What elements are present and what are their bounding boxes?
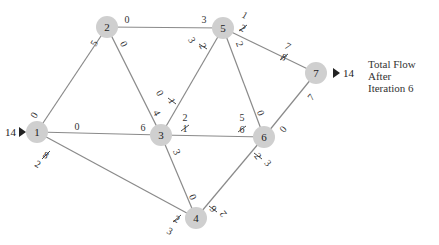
edge-5-6-label-near-5: 2 bbox=[234, 40, 246, 48]
edge-4-6 bbox=[196, 137, 264, 218]
edge-2-3-label-near-2: 0 bbox=[118, 39, 130, 48]
node-label: 5 bbox=[220, 22, 226, 34]
edge-3-5 bbox=[161, 28, 223, 135]
edge-3-4 bbox=[161, 135, 196, 218]
source-arrow-icon bbox=[19, 127, 26, 137]
edge-3-6-label-near-3: 2 1 bbox=[181, 112, 189, 134]
edge-5-7-label-near-7: 7 8 bbox=[279, 40, 293, 63]
node-label: 4 bbox=[193, 212, 199, 224]
node-label: 7 bbox=[313, 67, 319, 79]
edge-3-4-label-near-3: 3 bbox=[171, 148, 183, 157]
node-label: 1 bbox=[34, 126, 40, 138]
edge-2-3-label-near-3: 4 bbox=[151, 108, 163, 117]
edge-2-5-label-near-2: 0 bbox=[125, 14, 130, 25]
edge-1-2-label-near-1: 0 bbox=[28, 110, 40, 120]
node-label: 6 bbox=[261, 131, 267, 143]
sink-outflow: 14 bbox=[333, 67, 355, 79]
edge-4-6-label-near-4: 6 2 bbox=[207, 204, 229, 220]
edge-6-7-label-near-6: 0 bbox=[277, 124, 289, 135]
node-5: 5 bbox=[212, 17, 234, 39]
edge-3-6-current-value-near-6: 5 bbox=[240, 112, 245, 123]
edge-1-4-current-value: 2 bbox=[33, 158, 43, 170]
network-flow-diagram: 0 5 0 6 8 2 2 3 0 4 0 3 3 0 0 1 bbox=[0, 0, 439, 245]
edge-4-6-label-near-6: 2 3 bbox=[252, 151, 274, 169]
edge-2-3 bbox=[107, 27, 161, 135]
caption-line-2: After bbox=[368, 70, 416, 82]
edge-1-3-label-near-3: 6 bbox=[141, 122, 146, 133]
edge-3-5-label-near-3: 0 1 bbox=[154, 88, 178, 106]
edge-4-6-current-value-near-6: 3 bbox=[262, 158, 274, 169]
caption-line-3: Iteration 6 bbox=[368, 82, 416, 94]
edge-labels: 0 5 0 6 8 2 2 3 0 4 0 3 3 0 0 1 bbox=[28, 9, 317, 237]
source-inflow-value: 14 bbox=[5, 126, 17, 138]
edge-3-6-current-value: 2 bbox=[183, 112, 188, 123]
node-label: 3 bbox=[158, 129, 164, 141]
edge-6-7-label-near-7: 7 bbox=[305, 92, 317, 103]
total-flow-caption: Total Flow After Iteration 6 bbox=[368, 58, 416, 94]
node-7: 7 bbox=[305, 62, 327, 84]
node-label: 2 bbox=[104, 21, 110, 33]
edge-3-6-label-near-6: 5 6 bbox=[238, 112, 246, 135]
edge-5-6-label-near-6: 0 bbox=[255, 109, 267, 117]
edge-5-7-current-value: 1 bbox=[240, 9, 250, 21]
edge-1-3-label-near-1: 0 bbox=[75, 121, 80, 132]
source-inflow: 14 bbox=[5, 126, 26, 138]
edge-1-4 bbox=[37, 132, 196, 218]
node-4: 4 bbox=[185, 207, 207, 229]
node-1: 1 bbox=[26, 121, 48, 143]
edge-3-5-current-value-near-5: 3 bbox=[186, 35, 198, 45]
edge-2-5 bbox=[107, 27, 223, 28]
edge-5-7-label-near-5: 1 2 bbox=[238, 9, 250, 34]
sink-arrow-icon bbox=[333, 68, 340, 78]
caption-line-1: Total Flow bbox=[368, 58, 416, 70]
node-2: 2 bbox=[96, 16, 118, 38]
node-3: 3 bbox=[150, 124, 172, 146]
edge-3-5-current-value: 0 bbox=[154, 88, 166, 98]
edge-1-4-current-value-near-4: 3 bbox=[165, 225, 175, 237]
edge-3-4-label-near-4: 0 bbox=[187, 193, 199, 202]
edge-4-6-current-value: 2 bbox=[217, 209, 229, 220]
edge-1-4-label-near-1: 8 2 bbox=[33, 149, 51, 170]
edge-3-5-label-near-5: 3 2 bbox=[186, 35, 209, 51]
node-6: 6 bbox=[253, 126, 275, 148]
nodes: 1 2 3 4 5 6 7 bbox=[26, 16, 327, 229]
edge-3-6 bbox=[161, 135, 264, 137]
edge-2-5-label-near-5: 3 bbox=[202, 14, 207, 25]
sink-outflow-value: 14 bbox=[343, 67, 355, 79]
edge-6-7 bbox=[264, 73, 316, 137]
edge-1-4-label-near-4: 2 3 bbox=[165, 213, 182, 237]
